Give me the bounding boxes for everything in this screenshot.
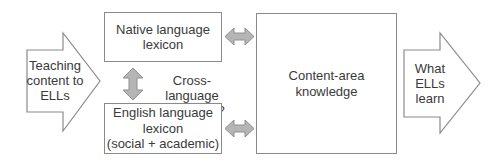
native-box-line: lexicon bbox=[116, 37, 210, 53]
horizontal-double-arrow-icon-bottom bbox=[225, 120, 254, 137]
output-label-line: ELLs bbox=[404, 76, 456, 91]
horizontal-double-arrow-icon-top bbox=[225, 28, 254, 45]
native-language-lexicon-box: Native language lexicon bbox=[104, 12, 222, 62]
input-label-line: content to bbox=[24, 73, 86, 88]
english-language-lexicon-box: English language lexicon (social + acade… bbox=[104, 103, 222, 154]
input-label-line: ELLs bbox=[24, 88, 86, 103]
input-label-line: Teaching bbox=[24, 58, 86, 73]
transfer-label-line: Cross-language bbox=[148, 73, 236, 103]
center-box-line: Content-area bbox=[289, 68, 365, 84]
content-area-knowledge-box: Content-area knowledge bbox=[256, 13, 397, 154]
native-box-line: Native language bbox=[116, 22, 210, 38]
center-box-line: knowledge bbox=[289, 84, 365, 100]
english-box-line: lexicon bbox=[107, 121, 219, 137]
output-label-line: What bbox=[404, 61, 456, 76]
output-arrow-label: What ELLs learn bbox=[404, 61, 456, 106]
english-box-line: English language bbox=[107, 105, 219, 121]
output-label-line: learn bbox=[404, 91, 456, 106]
english-box-line: (social + academic) bbox=[107, 136, 219, 152]
input-arrow-label: Teaching content to ELLs bbox=[24, 58, 86, 103]
vertical-double-arrow-icon bbox=[123, 68, 143, 100]
